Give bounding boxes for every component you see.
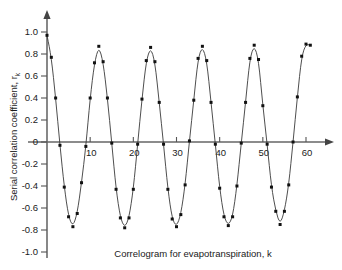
chart-background xyxy=(0,0,342,270)
x-tick-label: 10 xyxy=(86,147,97,158)
data-point-marker xyxy=(93,61,96,64)
correlogram-chart: 1.00.80.60.40.20-0.2-0.4-0.6-0.8-1.0 102… xyxy=(0,0,342,270)
data-point-marker xyxy=(102,60,105,63)
data-point-marker xyxy=(76,212,79,215)
data-point-marker xyxy=(80,181,83,184)
data-point-marker xyxy=(140,98,143,101)
data-point-marker xyxy=(123,226,126,229)
y-axis-label: Serial correlation coefficient, rk xyxy=(8,72,21,201)
data-point-marker xyxy=(179,213,182,216)
y-tick-label: 0.4 xyxy=(25,92,38,103)
x-tick-label: 30 xyxy=(172,147,183,158)
data-point-marker xyxy=(166,188,169,191)
data-point-marker xyxy=(46,34,49,37)
data-point-marker xyxy=(240,142,243,145)
data-point-marker xyxy=(149,46,152,49)
data-point-marker xyxy=(300,55,303,58)
data-point-marker xyxy=(128,216,131,219)
data-point-marker xyxy=(54,97,57,100)
data-point-marker xyxy=(119,216,122,219)
y-axis-label-main: Serial correlation coefficient, r xyxy=(8,76,19,201)
y-tick-label: -0.8 xyxy=(22,224,38,235)
data-point-marker xyxy=(171,218,174,221)
data-point-marker xyxy=(192,99,195,102)
data-point-marker xyxy=(248,57,251,60)
data-point-marker xyxy=(115,188,118,191)
data-point-marker xyxy=(153,60,156,63)
data-point-marker xyxy=(58,144,61,147)
y-tick-label: 0.6 xyxy=(25,70,38,81)
data-point-marker xyxy=(110,142,113,145)
data-point-marker xyxy=(97,45,100,48)
data-point-marker xyxy=(287,183,290,186)
data-point-marker xyxy=(106,97,109,100)
y-tick-label: -0.4 xyxy=(22,180,38,191)
x-tick-label: 60 xyxy=(302,147,313,158)
data-point-marker xyxy=(296,95,299,98)
data-point-marker xyxy=(84,145,87,148)
y-tick-label: 0 xyxy=(33,136,38,147)
data-point-marker xyxy=(205,59,208,62)
data-point-marker xyxy=(266,143,269,146)
data-point-marker xyxy=(218,187,221,190)
data-point-marker xyxy=(283,210,286,213)
data-point-marker xyxy=(274,210,277,213)
data-point-marker xyxy=(67,215,70,218)
data-point-marker xyxy=(292,141,295,144)
data-point-marker xyxy=(305,43,308,46)
data-point-marker xyxy=(89,97,92,100)
data-point-marker xyxy=(132,188,135,191)
data-point-marker xyxy=(184,183,187,186)
data-point-marker xyxy=(136,143,139,146)
data-point-marker xyxy=(201,45,204,48)
data-point-marker xyxy=(158,101,161,104)
data-point-marker xyxy=(175,225,178,228)
data-point-marker xyxy=(71,225,74,228)
data-point-marker xyxy=(214,143,217,146)
data-point-marker xyxy=(188,139,191,142)
data-point-marker xyxy=(50,56,53,59)
chart-canvas: 1.00.80.60.40.20-0.2-0.4-0.6-0.8-1.0 102… xyxy=(0,0,342,270)
data-point-marker xyxy=(235,185,238,188)
y-tick-label: 0.2 xyxy=(25,114,38,125)
y-tick-label: -0.2 xyxy=(22,158,38,169)
data-point-marker xyxy=(197,57,200,60)
y-tick-label: -1.0 xyxy=(22,246,38,257)
data-point-marker xyxy=(162,143,165,146)
y-tick-label: 0.8 xyxy=(25,48,38,59)
y-tick-label: -0.6 xyxy=(22,202,38,213)
y-axis-label-text: Serial correlation coefficient, rk xyxy=(8,72,21,201)
data-point-marker xyxy=(244,101,247,104)
data-point-marker xyxy=(257,58,260,61)
data-point-marker xyxy=(270,186,273,189)
data-point-marker xyxy=(222,215,225,218)
data-point-marker xyxy=(253,44,256,47)
data-point-marker xyxy=(210,101,213,104)
data-point-marker xyxy=(279,223,282,226)
y-tick-label: 1.0 xyxy=(25,26,38,37)
data-point-marker xyxy=(261,104,264,107)
x-tick-label: 20 xyxy=(129,147,140,158)
data-point-marker xyxy=(231,215,234,218)
data-point-marker xyxy=(227,224,230,227)
data-point-marker xyxy=(63,186,66,189)
x-axis-caption: Correlogram for evapotranspiration, k xyxy=(114,248,272,259)
data-point-marker xyxy=(145,59,148,62)
data-point-marker xyxy=(309,44,312,47)
